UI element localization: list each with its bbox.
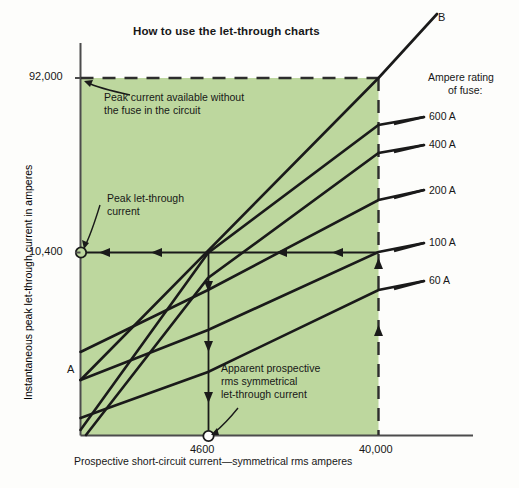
legend-item-60a[interactable]: 60 A bbox=[429, 274, 450, 287]
y-axis-title: Instantaneous peak let-through current i… bbox=[22, 165, 34, 400]
annotation-peak-letthrough-line2: current bbox=[107, 205, 140, 218]
annotation-apparent-line3: let-through current bbox=[221, 388, 307, 401]
legend-item-600a[interactable]: 600 A bbox=[429, 110, 456, 123]
x-axis-title: Prospective short-circuit current—symmet… bbox=[74, 455, 352, 467]
legend-item-400a[interactable]: 400 A bbox=[429, 138, 456, 151]
legend-item-100a[interactable]: 100 A bbox=[429, 236, 456, 249]
legend-item-200a[interactable]: 200 A bbox=[429, 184, 456, 197]
point-label-a: A bbox=[67, 363, 74, 375]
x-tick-label-4600: 4600 bbox=[190, 443, 214, 455]
x-tick-label-40000: 40,000 bbox=[359, 443, 393, 455]
annotation-apparent-line1: Apparent prospective bbox=[221, 362, 320, 375]
annotation-peak-available-line1: Peak current available without bbox=[104, 91, 244, 104]
page-title: How to use the let-through charts bbox=[133, 25, 320, 37]
legend-title-line2: of fuse: bbox=[448, 84, 482, 97]
annotation-peak-letthrough-line1: Peak let-through bbox=[107, 192, 184, 205]
y-tick-label-10400: 10,400 bbox=[29, 245, 63, 257]
annotation-peak-available-line2: the fuse in the circuit bbox=[104, 104, 200, 117]
y-tick-label-92000: 92,000 bbox=[29, 70, 63, 82]
chart-figure: How to use the let-through charts Instan… bbox=[0, 0, 519, 488]
legend-leader-lines bbox=[394, 117, 424, 289]
annotation-apparent-line2: rms symmetrical bbox=[221, 375, 297, 388]
legend-title-line1: Ampere rating bbox=[428, 71, 494, 84]
point-label-b: B bbox=[438, 11, 445, 23]
marker-apparent-rms bbox=[203, 431, 213, 441]
